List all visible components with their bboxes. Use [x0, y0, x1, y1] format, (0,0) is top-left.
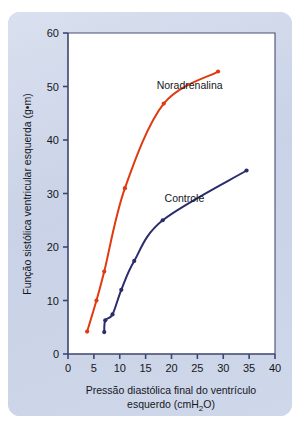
data-point — [162, 102, 166, 106]
y-tick-label: 50 — [47, 81, 59, 93]
data-point — [94, 298, 98, 302]
x-axis-title-suffix: O) — [203, 398, 215, 410]
data-point — [85, 329, 89, 333]
series-label-noradrenalina: Noradrenalina — [157, 79, 223, 91]
x-tick-label: 40 — [269, 362, 281, 374]
x-axis-title-prefix: esquerdo (cmH — [127, 398, 199, 410]
y-tick-label: 40 — [47, 134, 59, 146]
y-tick-label: 30 — [47, 188, 59, 200]
data-point — [102, 270, 106, 274]
data-point — [102, 330, 106, 334]
data-point — [123, 186, 127, 190]
x-tick-label: 30 — [217, 362, 229, 374]
y-tick-label: 20 — [47, 241, 59, 253]
data-point — [216, 69, 220, 73]
x-tick-label: 25 — [191, 362, 203, 374]
data-point — [103, 318, 107, 322]
data-point — [161, 218, 165, 222]
y-tick-label: 10 — [47, 295, 59, 307]
x-tick-label: 15 — [140, 362, 152, 374]
ventricular-function-chart: 01020304050600510152025303540 Noradrenal… — [0, 0, 300, 428]
data-point — [119, 288, 123, 292]
x-axis-title-line2: esquerdo (cmH2O) — [127, 398, 215, 413]
data-point — [244, 168, 248, 172]
x-tick-label: 0 — [65, 362, 71, 374]
data-point — [110, 312, 114, 316]
y-tick-label: 0 — [53, 348, 59, 360]
y-tick-label: 60 — [47, 27, 59, 39]
chart-figure: 01020304050600510152025303540 Noradrenal… — [0, 0, 300, 428]
x-tick-label: 10 — [114, 362, 126, 374]
x-tick-label: 5 — [91, 362, 97, 374]
x-tick-label: 35 — [243, 362, 255, 374]
data-point — [132, 259, 136, 263]
y-axis-title: Função sistólica ventricular esquerda (g… — [21, 93, 33, 295]
x-tick-label: 20 — [165, 362, 177, 374]
x-axis-title-line1: Pressão diastólica final do ventrículo — [86, 384, 257, 396]
series-label-controle: Controle — [165, 192, 205, 204]
